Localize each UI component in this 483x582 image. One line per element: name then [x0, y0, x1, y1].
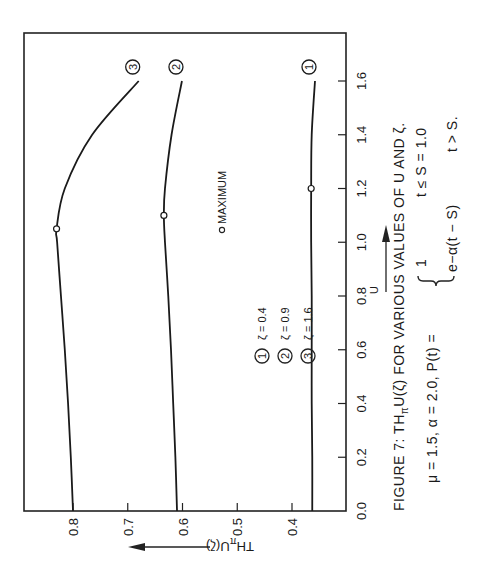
- x-axis-label: U: [368, 286, 380, 294]
- legend-label-3: ζ = 1.6: [302, 307, 314, 340]
- case1-value: 1: [413, 259, 429, 267]
- legend-label-1: ζ = 0.4: [256, 307, 268, 340]
- x-tick-label: 0.6: [354, 341, 369, 359]
- maximum-label: MAXIMUM: [216, 171, 228, 224]
- legend-marker-2: 2: [279, 353, 291, 359]
- y-tick-label: 0.5: [230, 518, 245, 536]
- y-axis-arrow-icon: [128, 543, 145, 551]
- y-tick-label: 0.6: [176, 518, 191, 536]
- y-tick-label: 0.7: [121, 518, 136, 536]
- legend-entry-2: 2 ζ = 0.9: [278, 307, 292, 363]
- x-tick-label: 0.8: [354, 287, 369, 305]
- case1-condition: t ≤ S = 1.0: [413, 127, 429, 197]
- x-tick-label: 1.4: [354, 126, 369, 144]
- x-tick-label: 0.2: [354, 448, 369, 466]
- case2-condition: t > S.: [444, 116, 460, 152]
- plot-frame: [24, 33, 346, 511]
- maximum-marker-icon: [219, 227, 224, 232]
- caption-params: μ = 1.5, α = 2.0, P(t) =: [424, 334, 440, 483]
- x-tick-label: 1.6: [354, 72, 369, 90]
- x-axis-arrow-icon: [382, 225, 390, 242]
- y-axis-title: THπU(ζ): [128, 536, 254, 554]
- series-line-1: [311, 81, 315, 511]
- legend-marker-3: 3: [302, 353, 314, 359]
- series-line-2: [164, 81, 182, 511]
- series-end-label-2: 2: [170, 64, 182, 70]
- x-ticks: 0.00.20.40.60.81.01.21.41.6: [338, 72, 369, 520]
- curves: 123: [54, 60, 316, 511]
- y-tick-label: 0.4: [285, 518, 300, 536]
- caption-title: FIGURE 7: THπU(ζ) FOR VARIOUS VALUES OF …: [391, 122, 410, 511]
- legend-label-2: ζ = 0.9: [279, 307, 291, 340]
- y-tick-label: 0.8: [66, 518, 81, 536]
- legend: 1 ζ = 0.4 2 ζ = 0.9 3 ζ = 1.6: [255, 307, 315, 363]
- series-end-label-1: 1: [303, 64, 315, 70]
- x-axis-title: U: [368, 225, 390, 294]
- maximum-annotation: MAXIMUM: [216, 171, 228, 233]
- y-ticks: 0.40.50.60.70.8: [66, 503, 300, 536]
- series-end-label-3: 3: [127, 64, 139, 70]
- brace-icon: [418, 276, 454, 286]
- legend-entry-3: 3 ζ = 1.6: [301, 307, 315, 363]
- series-maximum-marker-1: [308, 186, 314, 192]
- rotated-figure: 0.00.20.40.60.81.01.21.41.6 0.40.50.60.7…: [0, 0, 483, 582]
- legend-marker-1: 1: [256, 353, 268, 359]
- x-tick-label: 0.0: [354, 502, 369, 520]
- legend-entry-1: 1 ζ = 0.4: [255, 307, 269, 363]
- y-axis-label: THπU(ζ): [206, 536, 254, 554]
- chart: 0.00.20.40.60.81.01.21.41.6 0.40.50.60.7…: [0, 0, 483, 582]
- x-tick-label: 1.2: [354, 179, 369, 197]
- figure-caption: FIGURE 7: THπU(ζ) FOR VARIOUS VALUES OF …: [391, 116, 460, 511]
- case2-value: e−α(t − S): [444, 204, 460, 272]
- x-tick-label: 1.0: [354, 233, 369, 251]
- series-maximum-marker-3: [54, 226, 60, 232]
- series-maximum-marker-2: [161, 212, 167, 218]
- series-line-3: [56, 81, 139, 511]
- x-tick-label: 0.4: [354, 394, 369, 412]
